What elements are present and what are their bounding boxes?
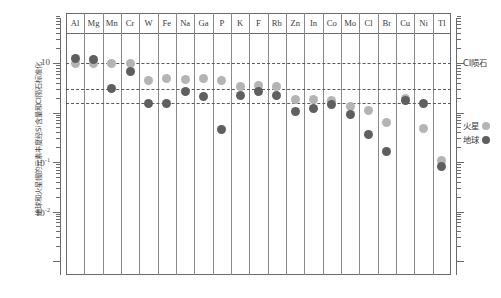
- element-label-br: Br: [378, 16, 396, 31]
- element-label-fe: Fe: [158, 16, 176, 31]
- legend-mars-swatch-icon: [482, 122, 490, 130]
- right-tick-minor: [457, 182, 461, 183]
- y-axis-title: 地球和火星幔的元素丰度经Si含量和CI陨石标准化: [33, 14, 43, 264]
- y-tick-minor: [56, 188, 60, 189]
- y-tick-minor: [56, 117, 60, 118]
- column-separator: [158, 13, 159, 275]
- y-tick-minor: [56, 98, 60, 99]
- element-label-al: Al: [66, 16, 84, 31]
- legend-item-mars: 火星: [463, 119, 490, 131]
- element-label-ni: Ni: [414, 16, 432, 31]
- right-tick-minor: [457, 83, 461, 84]
- column-separator: [103, 13, 104, 275]
- y-tick-minor: [56, 68, 60, 69]
- data-point-earth-in: [309, 104, 318, 113]
- element-label-w: W: [139, 16, 157, 31]
- plot-area-frame: [66, 13, 451, 275]
- column-separator: [286, 13, 287, 275]
- reference-line-2: [66, 103, 451, 104]
- column-separator: [249, 13, 250, 275]
- element-label-in: In: [304, 16, 322, 31]
- data-point-mars-k: [236, 82, 245, 91]
- element-label-rb: Rb: [268, 16, 286, 31]
- y-tick-minor: [56, 123, 60, 124]
- data-point-earth-ga: [199, 92, 208, 101]
- y-tick-minor: [56, 24, 60, 25]
- column-separator: [139, 13, 140, 275]
- right-tick-minor: [457, 78, 461, 79]
- legend-item-earth: 地球: [463, 133, 490, 145]
- right-tick-minor: [457, 132, 461, 133]
- column-separator: [341, 13, 342, 275]
- element-label-ga: Ga: [194, 16, 212, 31]
- element-label-cl: Cl: [359, 16, 377, 31]
- right-tick-minor: [457, 16, 461, 17]
- right-tick-minor: [457, 127, 461, 128]
- right-tick-minor: [457, 74, 461, 75]
- data-point-mars-w: [144, 76, 153, 85]
- y-tick-label: 10-1: [2, 156, 50, 168]
- y-tick-minor: [56, 237, 60, 238]
- right-tick-minor: [457, 173, 461, 174]
- element-label-k: K: [231, 16, 249, 31]
- y-tick-minor: [56, 167, 60, 168]
- y-tick-major: [53, 63, 60, 64]
- y-tick-minor: [56, 246, 60, 247]
- right-tick-minor: [457, 197, 461, 198]
- data-point-earth-zn: [291, 107, 300, 116]
- y-tick-minor: [56, 127, 60, 128]
- right-tick-major: [457, 162, 464, 163]
- y-tick-minor: [56, 173, 60, 174]
- right-tick-minor: [457, 89, 461, 90]
- y-tick-minor: [56, 65, 60, 66]
- column-separator: [396, 13, 397, 275]
- y-tick-major: [53, 162, 60, 163]
- column-separator: [359, 13, 360, 275]
- column-separator: [378, 13, 379, 275]
- y-tick-major: [53, 113, 60, 114]
- y-tick-minor: [56, 28, 60, 29]
- data-point-earth-k: [236, 91, 245, 100]
- y-tick-minor: [56, 78, 60, 79]
- right-tick-minor: [457, 170, 461, 171]
- right-tick-minor: [457, 98, 461, 99]
- y-axis-line: [60, 18, 61, 275]
- right-tick-minor: [457, 167, 461, 168]
- element-label-na: Na: [176, 16, 194, 31]
- right-tick-minor: [457, 120, 461, 121]
- y-tick-minor: [56, 115, 60, 116]
- data-point-earth-cl: [364, 130, 373, 139]
- right-tick-minor: [457, 219, 461, 220]
- y-tick-minor: [56, 83, 60, 84]
- right-tick-minor: [457, 65, 461, 66]
- right-tick-minor: [457, 216, 461, 217]
- column-separator: [194, 13, 195, 275]
- right-tick-minor: [457, 18, 461, 19]
- y-tick-minor: [56, 219, 60, 220]
- y-tick-minor: [56, 132, 60, 133]
- data-point-earth-al: [71, 54, 80, 63]
- element-label-f: F: [249, 16, 267, 31]
- chart-root: 地球和火星幔的元素丰度经Si含量和CI陨石标准化 1010-110-2 AlMg…: [0, 0, 501, 298]
- column-separator: [323, 13, 324, 275]
- right-tick-minor: [457, 33, 461, 34]
- column-separator: [84, 13, 85, 275]
- right-tick-minor: [457, 71, 461, 72]
- y-tick-minor: [56, 21, 60, 22]
- y-tick-minor: [56, 164, 60, 165]
- data-point-mars-na: [181, 75, 190, 84]
- y-tick-minor: [56, 39, 60, 40]
- y-tick-label: 10: [2, 57, 50, 67]
- y-tick-major: [53, 261, 60, 262]
- y-tick-minor: [56, 170, 60, 171]
- column-separator: [213, 13, 214, 275]
- reference-line-0: [66, 63, 451, 64]
- right-tick-minor: [457, 164, 461, 165]
- column-separator: [176, 13, 177, 275]
- element-label-zn: Zn: [286, 16, 304, 31]
- y-tick-minor: [56, 71, 60, 72]
- element-header-rule: [66, 33, 451, 34]
- column-separator: [268, 13, 269, 275]
- data-point-mars-ni: [419, 124, 428, 133]
- element-label-cu: Cu: [396, 16, 414, 31]
